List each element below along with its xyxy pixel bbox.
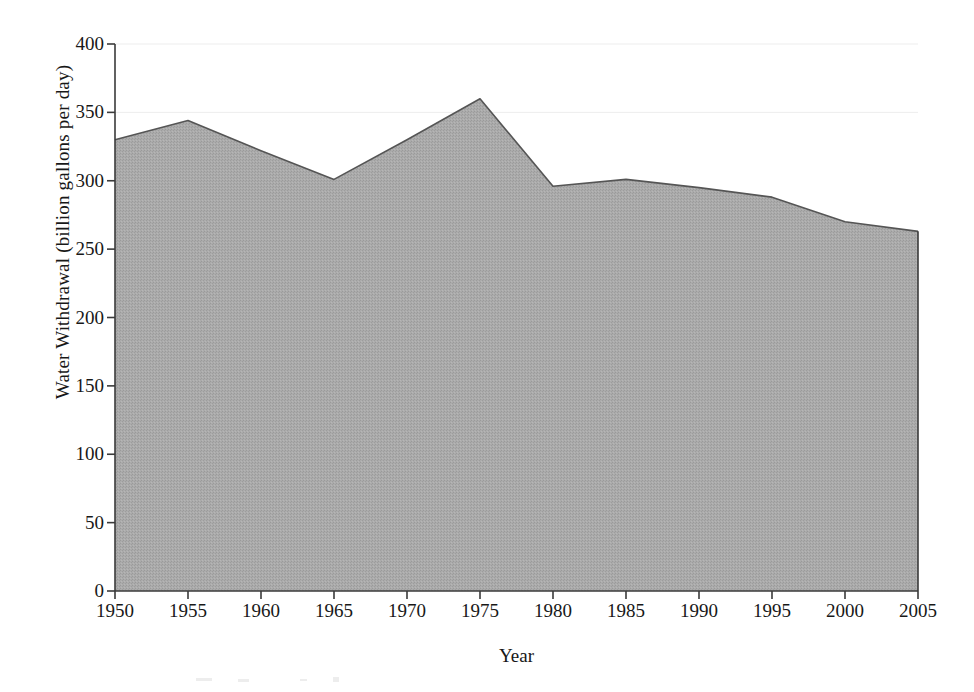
x-tick-label: 1980 bbox=[517, 600, 589, 622]
area-series bbox=[115, 99, 918, 591]
x-tick-label: 1950 bbox=[79, 600, 151, 622]
x-tick-label: 1985 bbox=[590, 600, 662, 622]
x-tick-label: 1965 bbox=[298, 600, 370, 622]
x-tick-label: 1960 bbox=[225, 600, 297, 622]
x-tick-label: 1975 bbox=[444, 600, 516, 622]
x-tick-label: 2005 bbox=[882, 600, 954, 622]
scan-artifact bbox=[238, 679, 249, 682]
scan-artifact bbox=[333, 677, 339, 682]
x-tick-label: 1995 bbox=[736, 600, 808, 622]
figure-container: Water Withdrawal (billion gallons per da… bbox=[0, 0, 974, 692]
scan-artifact bbox=[196, 678, 212, 681]
x-axis-tick-labels: 1950195519601965197019751980198519901995… bbox=[0, 600, 974, 630]
x-tick-label: 2000 bbox=[809, 600, 881, 622]
x-tick-label: 1990 bbox=[663, 600, 735, 622]
scan-artifact bbox=[300, 679, 307, 681]
gridlines bbox=[115, 44, 918, 112]
x-tick-label: 1970 bbox=[371, 600, 443, 622]
x-axis-title: Year bbox=[115, 645, 918, 667]
x-tick-label: 1955 bbox=[152, 600, 224, 622]
plot-area bbox=[0, 0, 974, 692]
